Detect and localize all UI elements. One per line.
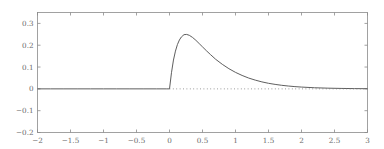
x-tick-label-10: 3: [365, 136, 370, 145]
y-axis-ticks: [38, 23, 368, 132]
x-tick-label-7: 1.5: [263, 136, 275, 145]
x-tick-label-5: 0.5: [197, 136, 209, 145]
y-tick-label-0: −0.2: [16, 128, 33, 137]
y-tick-label-5: 0.3: [22, 19, 34, 28]
plot-frame: [38, 13, 368, 133]
y-axis-tick-labels: −0.2−0.100.10.20.3: [16, 19, 34, 137]
y-tick-label-2: 0: [29, 84, 34, 93]
plot-frame-rect: [38, 13, 368, 133]
y-tick-label-1: −0.1: [16, 106, 33, 115]
x-axis-tick-labels: −2−1.5−1−0.500.511.522.53: [32, 136, 370, 145]
x-tick-label-0: −2: [32, 136, 43, 145]
x-tick-label-6: 1: [233, 136, 238, 145]
y-tick-label-4: 0.2: [22, 41, 33, 50]
x-tick-label-2: −1: [98, 136, 109, 145]
y-tick-label-3: 0.1: [22, 63, 33, 72]
x-tick-label-9: 2.5: [329, 136, 341, 145]
series-path-impulse-response: [38, 34, 368, 88]
data-series-group: [38, 34, 368, 88]
plot-canvas: −2−1.5−1−0.500.511.522.53 −0.2−0.100.10.…: [0, 0, 384, 149]
x-tick-label-3: −0.5: [128, 136, 146, 145]
x-tick-label-4: 0: [167, 136, 172, 145]
chart-figure: −2−1.5−1−0.500.511.522.53 −0.2−0.100.10.…: [0, 0, 384, 149]
x-tick-label-8: 2: [299, 136, 304, 145]
x-axis-ticks: [38, 13, 368, 133]
x-tick-label-1: −1.5: [62, 136, 80, 145]
